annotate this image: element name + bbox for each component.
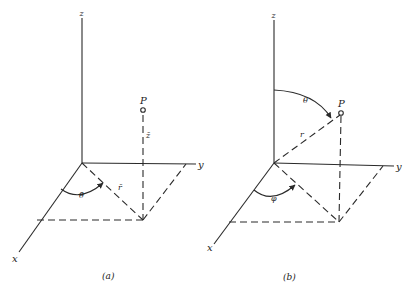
figure-canvas: z y x θ̄ r̄ z̄ P (a) z y x r θ xyxy=(0,0,408,291)
y-projection-line-a xyxy=(143,164,186,220)
point-p-a xyxy=(141,108,146,113)
y-axis-label-b: y xyxy=(395,161,402,172)
panel-a: z y x θ̄ r̄ z̄ P (a) xyxy=(12,9,204,281)
height-line-b xyxy=(339,116,341,222)
point-label-a: P xyxy=(139,95,147,106)
height-label-a: z̄ xyxy=(145,131,151,140)
caption-a: (a) xyxy=(102,271,115,281)
radius-label-b: r xyxy=(300,130,305,139)
y-axis-b xyxy=(274,163,394,166)
x-axis-b xyxy=(214,163,274,244)
x-axis-label-a: x xyxy=(12,253,18,264)
caption-b: (b) xyxy=(283,272,296,282)
angle-label-a: θ̄ xyxy=(79,191,84,200)
y-axis-a xyxy=(82,163,196,164)
polar-angle-label-b: θ xyxy=(303,96,308,105)
panel-b: z y x r θ φ P (b) xyxy=(207,11,402,282)
y-axis-label-a: y xyxy=(197,159,204,170)
x-axis-a xyxy=(19,163,82,252)
radius-label-a: r̄ xyxy=(118,183,123,192)
y-projection-line-b xyxy=(339,166,383,222)
radius-line-b xyxy=(274,115,340,163)
point-p-b xyxy=(339,111,344,116)
z-axis-label-a: z xyxy=(79,9,85,18)
azimuth-label-b: φ xyxy=(271,194,277,203)
z-axis-label-b: z xyxy=(271,11,277,20)
point-label-b: P xyxy=(337,98,345,109)
x-axis-label-b: x xyxy=(207,242,213,253)
